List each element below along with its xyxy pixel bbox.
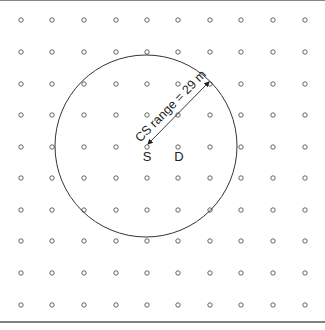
- grid-node: [303, 113, 307, 117]
- grid-node: [176, 82, 180, 86]
- grid-node: [50, 145, 54, 149]
- grid-node: [82, 271, 86, 275]
- grid-node: [271, 208, 275, 212]
- grid-node: [239, 303, 243, 307]
- grid-node: [114, 145, 118, 149]
- grid-node: [145, 208, 149, 212]
- grid-node: [82, 176, 86, 180]
- grid-node: [50, 208, 54, 212]
- grid-node: [19, 271, 23, 275]
- grid-node: [114, 113, 118, 117]
- grid-node: [271, 239, 275, 243]
- grid-node: [176, 50, 180, 54]
- grid-node: [303, 271, 307, 275]
- grid-node: [19, 176, 23, 180]
- grid-node: [303, 82, 307, 86]
- grid-node: [239, 50, 243, 54]
- grid-node: [50, 113, 54, 117]
- grid-node: [239, 208, 243, 212]
- grid-node: [114, 303, 118, 307]
- grid-node: [19, 113, 23, 117]
- cs-range-label: CS range = 29 m: [132, 67, 208, 144]
- grid-node: [50, 82, 54, 86]
- grid-node: [208, 271, 212, 275]
- grid-node: [19, 239, 23, 243]
- grid-node: [145, 271, 149, 275]
- grid-node: [303, 239, 307, 243]
- grid-node: [19, 50, 23, 54]
- grid-node: [303, 303, 307, 307]
- grid-node: [82, 303, 86, 307]
- grid-node: [271, 82, 275, 86]
- grid-node: [114, 82, 118, 86]
- grid-node: [239, 176, 243, 180]
- grid-node: [114, 50, 118, 54]
- grid-node: [271, 303, 275, 307]
- grid-node: [239, 18, 243, 22]
- grid-node: [82, 82, 86, 86]
- grid-node: [208, 303, 212, 307]
- grid-node: [176, 18, 180, 22]
- grid-node: [50, 271, 54, 275]
- grid-node: [50, 50, 54, 54]
- grid-node: [239, 239, 243, 243]
- grid-node: [145, 82, 149, 86]
- grid-node: [208, 239, 212, 243]
- grid-node: [114, 208, 118, 212]
- grid-node: [271, 50, 275, 54]
- grid-node: [114, 176, 118, 180]
- grid-node: [50, 18, 54, 22]
- grid-node: [176, 208, 180, 212]
- grid-node: [208, 50, 212, 54]
- source-label: S: [143, 149, 152, 164]
- grid-node: [114, 239, 118, 243]
- grid-node: [271, 176, 275, 180]
- grid-node: [303, 18, 307, 22]
- destination-label: D: [174, 149, 183, 164]
- grid-node: [19, 303, 23, 307]
- grid-node: [303, 208, 307, 212]
- grid-node: [145, 303, 149, 307]
- grid-node: [239, 271, 243, 275]
- grid-node: [208, 113, 212, 117]
- grid-node: [82, 239, 86, 243]
- carrier-sense-range-diagram: CS range = 29 m S D: [0, 0, 325, 330]
- grid-node: [114, 18, 118, 22]
- grid-nodes: [19, 18, 307, 307]
- grid-node: [239, 145, 243, 149]
- grid-node: [176, 176, 180, 180]
- grid-node: [50, 239, 54, 243]
- grid-node: [208, 145, 212, 149]
- grid-node: [303, 145, 307, 149]
- grid-node: [271, 113, 275, 117]
- grid-node: [19, 18, 23, 22]
- grid-node: [145, 18, 149, 22]
- grid-node: [271, 18, 275, 22]
- grid-node: [145, 50, 149, 54]
- grid-node: [82, 145, 86, 149]
- grid-node: [271, 145, 275, 149]
- grid-node: [50, 303, 54, 307]
- grid-node: [82, 113, 86, 117]
- grid-node: [208, 176, 212, 180]
- grid-node: [114, 271, 118, 275]
- grid-node: [19, 82, 23, 86]
- grid-node: [239, 113, 243, 117]
- grid-node: [145, 176, 149, 180]
- grid-node: [145, 239, 149, 243]
- grid-node: [176, 303, 180, 307]
- grid-node: [208, 18, 212, 22]
- grid-node: [303, 50, 307, 54]
- grid-node: [176, 239, 180, 243]
- grid-node: [19, 145, 23, 149]
- grid-node: [303, 176, 307, 180]
- grid-node: [145, 113, 149, 117]
- grid-node: [176, 271, 180, 275]
- grid-node: [50, 176, 54, 180]
- grid-node: [82, 18, 86, 22]
- grid-node: [271, 271, 275, 275]
- grid-node: [19, 208, 23, 212]
- grid-node: [239, 82, 243, 86]
- grid-node: [82, 50, 86, 54]
